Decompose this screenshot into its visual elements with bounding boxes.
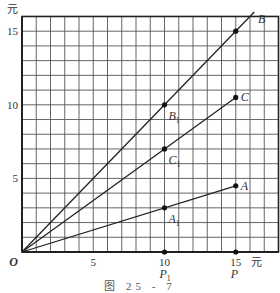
y-tick-label: 10 xyxy=(7,99,19,111)
axis-point-P xyxy=(233,249,238,254)
axis-point-P1 xyxy=(162,249,167,254)
y-tick-label: 15 xyxy=(7,25,19,37)
axis-labels: B1C1A1BCAP1P5101551015元元O xyxy=(7,3,266,283)
y-tick-label: 5 xyxy=(13,172,19,184)
series-line-C xyxy=(22,97,236,252)
point-C xyxy=(233,95,238,100)
point-A1 xyxy=(162,205,167,210)
figure-caption: 图 25 - 7 xyxy=(0,277,280,293)
y-axis-unit-label: 元 xyxy=(7,3,18,15)
origin-label: O xyxy=(9,255,18,269)
point-A xyxy=(233,183,238,188)
point-label-A: A xyxy=(240,179,249,193)
x-tick-label: 15 xyxy=(230,256,242,268)
grid-lines xyxy=(22,16,279,252)
point-label-A1: A1 xyxy=(168,212,180,228)
x-tick-label: 5 xyxy=(91,256,97,268)
point-label-B: B xyxy=(258,12,266,26)
point-label-B1: B1 xyxy=(169,109,180,125)
point-B1 xyxy=(162,102,167,107)
point-C1 xyxy=(162,146,167,151)
point-label-C: C xyxy=(241,90,250,104)
x-tick-label: 10 xyxy=(159,256,171,268)
x-axis-unit-label: 元 xyxy=(251,256,262,268)
chart: B1C1A1BCAP1P5101551015元元O xyxy=(0,0,280,293)
point-B xyxy=(233,29,238,34)
series-lines xyxy=(22,12,254,252)
